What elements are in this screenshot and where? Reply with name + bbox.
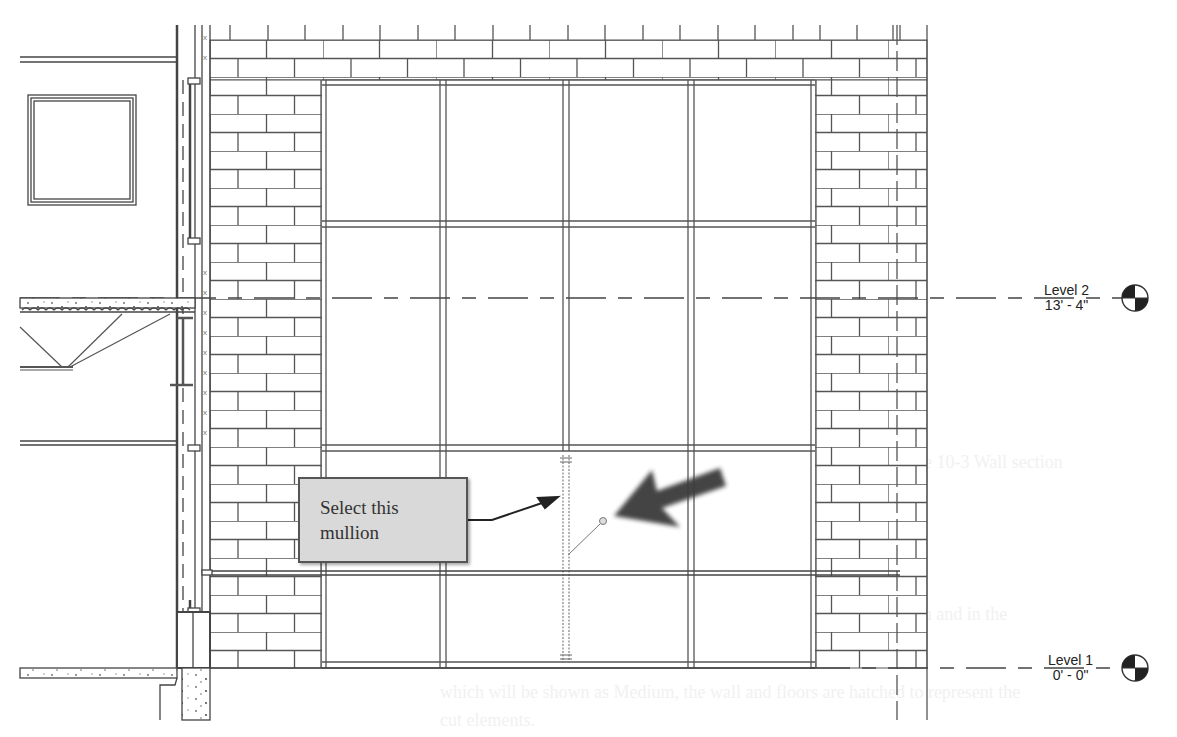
level-1-tag[interactable]: Level 1 0' - 0" xyxy=(1048,653,1093,683)
callout-line-2: mullion xyxy=(320,522,379,543)
floor-slab-level-2 xyxy=(20,298,195,312)
level-1-marker-icon[interactable] xyxy=(1122,655,1148,681)
level-1-name: Level 1 xyxy=(1048,653,1093,668)
brick-wall-top xyxy=(210,40,927,80)
brick-wall-left xyxy=(210,80,322,668)
ceiling-line xyxy=(20,441,177,445)
level-2-tag[interactable]: Level 2 13' - 4" xyxy=(1044,283,1089,313)
svg-text:x: x xyxy=(203,388,207,397)
svg-text:x: x xyxy=(203,408,207,417)
svg-text:x: x xyxy=(203,33,207,42)
svg-text:x: x xyxy=(203,328,207,337)
level-2-marker-icon[interactable] xyxy=(1122,285,1148,311)
select-mullion-callout: Select this mullion xyxy=(298,477,468,563)
level-1-elevation: 0' - 0" xyxy=(1048,668,1093,683)
level-2-name: Level 2 xyxy=(1044,283,1089,298)
svg-text:x: x xyxy=(203,268,207,277)
ceiling-hangers xyxy=(20,314,193,385)
svg-text:x: x xyxy=(203,288,207,297)
level-2-elevation: 13' - 4" xyxy=(1044,298,1089,313)
svg-text:x: x xyxy=(203,348,207,357)
top-brick-ticks xyxy=(230,25,900,40)
svg-text:x: x xyxy=(203,308,207,317)
elevation-drawing: x x x x x x x x x x x x x xyxy=(0,0,1177,737)
svg-text:x: x xyxy=(203,53,207,62)
window-opening xyxy=(28,95,136,205)
svg-text:x: x xyxy=(203,368,207,377)
callout-line-1: Select this xyxy=(320,497,399,518)
roof-edge xyxy=(20,57,177,62)
brick-wall-right xyxy=(815,80,927,668)
callout-text: Select this mullion xyxy=(320,495,399,545)
svg-text:x: x xyxy=(203,428,207,437)
